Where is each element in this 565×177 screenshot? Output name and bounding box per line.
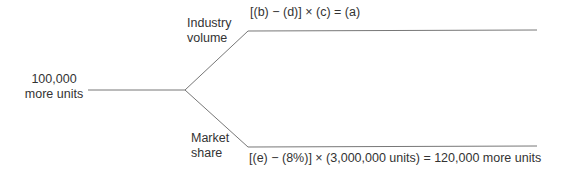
market-share-label: Market share: [191, 131, 229, 161]
root-label-line1: 100,000: [22, 72, 86, 87]
lower-branch-line: [185, 90, 537, 147]
upper-branch-line: [185, 30, 537, 90]
industry-volume-label: Industry volume: [187, 16, 231, 46]
root-label: 100,000 more units: [22, 72, 86, 102]
root-label-line2: more units: [22, 87, 86, 102]
market-label: Market: [191, 131, 229, 146]
industry-label: Industry: [187, 16, 231, 31]
lower-formula: [(e) − (8%)] × (3,000,000 units) = 120,0…: [249, 151, 541, 166]
share-label: share: [191, 146, 229, 161]
volume-label: volume: [187, 31, 231, 46]
upper-formula: [(b) − (d)] × (c) = (a): [250, 5, 360, 20]
